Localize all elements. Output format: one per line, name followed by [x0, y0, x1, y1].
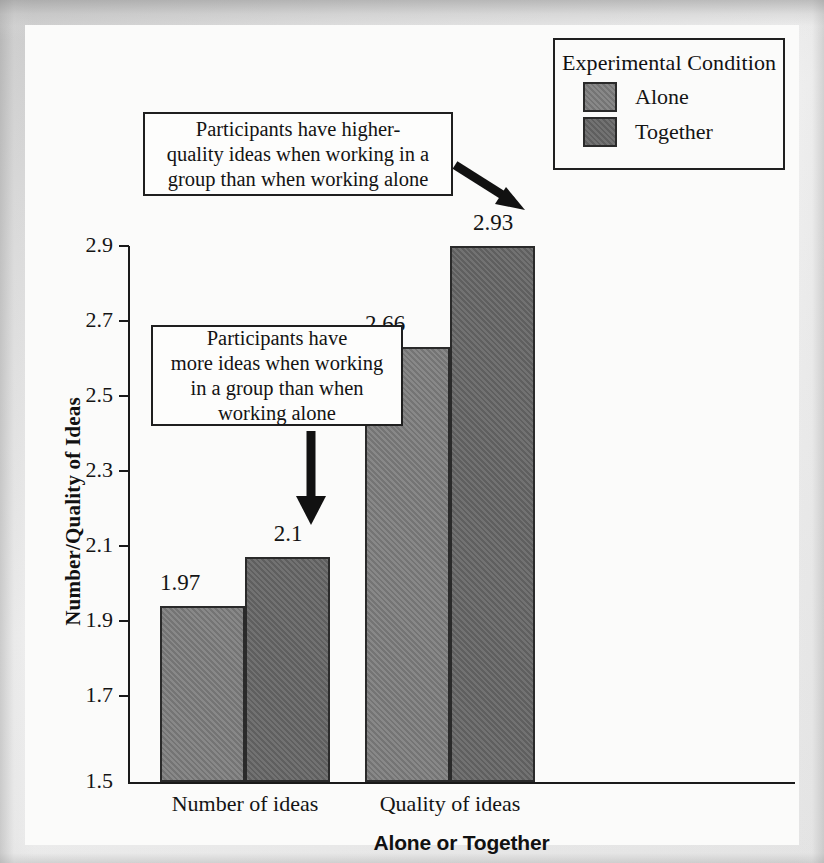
legend-label-together: Together — [635, 121, 713, 143]
annotation-callout-number: Participants have more ideas when workin… — [151, 325, 403, 426]
x-category-label-number-of-ideas: Number of ideas — [155, 793, 335, 815]
bar-quality-together[interactable] — [450, 246, 535, 782]
callout-quality-line2: quality ideas when working in a — [167, 143, 429, 165]
callout-number-line1: Participants have — [207, 327, 348, 349]
legend-item-alone[interactable]: Alone — [583, 82, 783, 112]
legend-title: Experimental Condition — [555, 50, 783, 76]
legend-swatch-alone-icon — [583, 82, 617, 112]
bar-number-together[interactable] — [245, 557, 330, 782]
callout-number-line3: in a group than when — [190, 377, 363, 399]
callout-number-line4: working alone — [218, 402, 336, 424]
legend-label-alone: Alone — [635, 86, 689, 108]
callout-quality-line1: Participants have higher- — [196, 118, 401, 140]
bar-value-number-together: 2.1 — [249, 522, 327, 545]
legend-swatch-together-icon — [583, 117, 617, 147]
x-axis-title: Alone or Together — [128, 831, 795, 855]
chart-canvas: 2.9 2.7 2.5 2.3 2.1 1.9 — [25, 25, 799, 845]
bar-value-quality-together: 2.93 — [449, 211, 537, 234]
annotation-callout-quality: Participants have higher- quality ideas … — [143, 112, 453, 196]
bar-value-number-alone: 1.97 — [140, 571, 220, 594]
legend-item-together[interactable]: Together — [583, 117, 783, 147]
chart-page: 2.9 2.7 2.5 2.3 2.1 1.9 — [0, 0, 824, 863]
legend: Experimental Condition Alone Together — [553, 38, 785, 170]
callout-number-line2: more ideas when working — [171, 352, 383, 374]
bar-number-alone[interactable] — [160, 606, 245, 782]
x-category-label-quality-of-ideas: Quality of ideas — [360, 793, 540, 815]
callout-quality-line3: group than when working alone — [168, 168, 429, 190]
